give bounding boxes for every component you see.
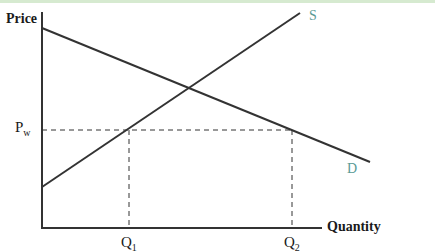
demand-label: D [347, 161, 357, 177]
q1-base: Q [121, 234, 132, 250]
q2-sub: 2 [295, 242, 300, 251]
y-axis-label: Price [6, 11, 37, 27]
q1-sub: 1 [132, 242, 137, 251]
q2-label: Q2 [284, 234, 300, 251]
q2-base: Q [284, 234, 295, 250]
supply-curve [42, 13, 300, 187]
q1-label: Q1 [121, 234, 137, 251]
world-price-label: Pw [15, 119, 31, 136]
supply-demand-diagram [0, 0, 435, 251]
world-price-sub: w [23, 127, 30, 138]
demand-curve [42, 28, 370, 162]
x-axis-label: Quantity [327, 219, 381, 235]
supply-label: S [309, 8, 317, 24]
